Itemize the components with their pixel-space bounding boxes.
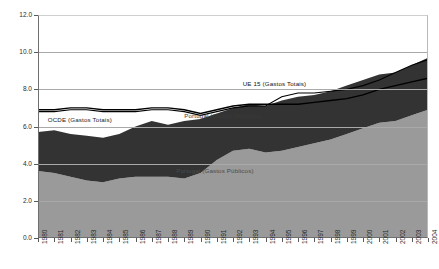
x-tick-mark	[184, 238, 185, 242]
x-tick-mark	[136, 238, 137, 242]
x-tick-mark	[168, 238, 169, 242]
x-tick-label: 2003	[415, 230, 422, 244]
x-tick-mark	[331, 238, 332, 242]
series-label-privados: Portugal (Gastos Privados)	[184, 112, 262, 119]
x-tick-label: 1996	[301, 230, 308, 244]
y-tick-label: 12.0	[0, 11, 32, 18]
gridline	[38, 201, 428, 202]
gridline	[38, 89, 428, 90]
x-tick-mark	[201, 238, 202, 242]
x-tick-mark	[314, 238, 315, 242]
x-tick-label: 1989	[187, 230, 194, 244]
x-tick-label: 1985	[122, 230, 129, 244]
x-tick-mark	[152, 238, 153, 242]
x-tick-mark	[87, 238, 88, 242]
chart-root: 0.02.04.06.08.010.012.0 1980198119821983…	[0, 0, 439, 269]
gridline	[38, 15, 428, 16]
x-tick-mark	[363, 238, 364, 242]
gridline	[38, 52, 428, 53]
x-tick-mark	[428, 238, 429, 242]
x-tick-label: 1995	[285, 230, 292, 244]
x-tick-label: 1980	[41, 230, 48, 244]
x-tick-mark	[249, 238, 250, 242]
x-tick-mark	[379, 238, 380, 242]
series-label-publicos: Portugal (Gastos Públicos)	[176, 167, 254, 174]
x-tick-mark	[282, 238, 283, 242]
y-tick-label: 4.0	[0, 160, 32, 167]
plot-area	[38, 15, 428, 238]
x-tick-mark	[217, 238, 218, 242]
gridline	[38, 127, 428, 128]
x-tick-mark	[38, 238, 39, 242]
x-tick-label: 1984	[106, 230, 113, 244]
x-tick-mark	[103, 238, 104, 242]
y-tick-label: 10.0	[0, 48, 32, 55]
x-tick-label: 1990	[204, 230, 211, 244]
y-tick-label: 6.0	[0, 123, 32, 130]
x-tick-mark	[298, 238, 299, 242]
x-tick-label: 1988	[171, 230, 178, 244]
x-tick-label: 1997	[317, 230, 324, 244]
x-tick-mark	[396, 238, 397, 242]
x-tick-mark	[266, 238, 267, 242]
x-tick-label: 1993	[252, 230, 259, 244]
y-tick-label: 8.0	[0, 85, 32, 92]
x-tick-mark	[119, 238, 120, 242]
x-tick-label: 2000	[366, 230, 373, 244]
y-tick-label: 2.0	[0, 197, 32, 204]
x-tick-label: 1991	[220, 230, 227, 244]
x-tick-label: 1983	[90, 230, 97, 244]
x-tick-mark	[347, 238, 348, 242]
x-tick-mark	[412, 238, 413, 242]
x-tick-label: 1994	[269, 230, 276, 244]
x-tick-label: 2004	[431, 230, 438, 244]
x-tick-mark	[71, 238, 72, 242]
x-tick-label: 1992	[236, 230, 243, 244]
x-tick-mark	[233, 238, 234, 242]
x-tick-label: 1998	[334, 230, 341, 244]
x-tick-label: 1982	[74, 230, 81, 244]
series-label-ue15: UE 15 (Gastos Totais)	[243, 80, 307, 87]
x-tick-label: 1987	[155, 230, 162, 244]
series-label-ocde: OCDE (Gastos Totais)	[48, 116, 112, 123]
x-tick-label: 1986	[139, 230, 146, 244]
gridline	[38, 164, 428, 165]
y-tick-label: 0.0	[0, 234, 32, 241]
x-tick-label: 2001	[382, 230, 389, 244]
x-tick-label: 1981	[57, 230, 64, 244]
x-tick-label: 1999	[350, 230, 357, 244]
x-tick-mark	[54, 238, 55, 242]
x-tick-label: 2002	[399, 230, 406, 244]
